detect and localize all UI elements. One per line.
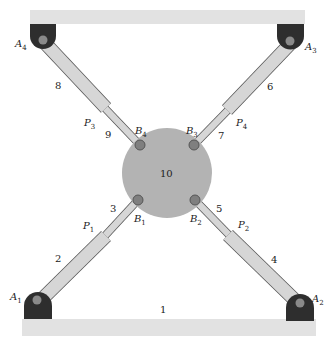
label-link-5: 5 <box>216 203 222 214</box>
label-link-6: 6 <box>267 81 273 92</box>
joint-a4 <box>39 36 48 45</box>
label-b2: B2 <box>189 213 202 227</box>
cylinder-6-fill <box>227 43 291 110</box>
cylinder-8-fill <box>44 42 106 108</box>
label-p1: P1 <box>82 220 94 234</box>
rod-7-fill <box>194 106 232 145</box>
label-a1: A1 <box>9 291 22 305</box>
label-p3: P3 <box>83 117 95 131</box>
joint-b3 <box>189 140 199 150</box>
bottom-base-plate <box>22 319 316 336</box>
leg-2 <box>195 200 300 305</box>
label-link-1: 1 <box>160 304 166 315</box>
joint-a3 <box>286 37 295 46</box>
label-a4: A4 <box>14 38 27 52</box>
label-p2: P2 <box>237 219 249 233</box>
rod-3-fill <box>102 200 138 239</box>
joint-b4 <box>135 140 145 150</box>
label-p4: P4 <box>235 117 248 131</box>
label-link-7: 7 <box>218 130 224 141</box>
joint-b2 <box>190 195 200 205</box>
cylinder-4-fill <box>228 235 300 305</box>
mechanism-diagram: 1 2 3 4 5 6 7 8 9 10 A4 A3 A1 A2 B4 B3 B… <box>0 0 336 348</box>
label-link-10: 10 <box>160 168 173 179</box>
top-base-plate <box>30 10 305 24</box>
label-link-4: 4 <box>271 254 277 265</box>
cylinder-2-fill <box>38 236 106 303</box>
label-a3: A3 <box>304 41 317 55</box>
label-b1: B1 <box>133 213 146 227</box>
joint-a1 <box>33 296 42 305</box>
label-link-9: 9 <box>105 129 111 140</box>
joint-a2 <box>296 299 305 308</box>
leg-1 <box>38 200 138 303</box>
label-link-2: 2 <box>55 253 61 264</box>
label-link-8: 8 <box>55 80 61 91</box>
label-link-3: 3 <box>110 203 116 214</box>
joint-b1 <box>133 195 143 205</box>
